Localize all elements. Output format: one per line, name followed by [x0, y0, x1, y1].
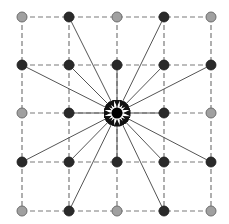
dark-node [64, 157, 74, 167]
arrow-edge [123, 116, 207, 160]
dark-node [64, 60, 74, 70]
dark-node [159, 12, 169, 22]
arrow-edge [121, 118, 160, 159]
arrow-edge [73, 69, 113, 109]
dark-node [159, 60, 169, 70]
dark-node [64, 12, 74, 22]
arrow-edge [71, 21, 114, 107]
gray-node [17, 12, 27, 22]
dark-node [159, 108, 169, 118]
dark-node [159, 157, 169, 167]
gray-node [206, 12, 216, 22]
arrow-edge [71, 119, 114, 207]
gray-node [206, 206, 216, 216]
dark-node [206, 157, 216, 167]
gray-node [112, 206, 122, 216]
arrow-edge [120, 21, 162, 107]
grid-neighborhood-diagram [0, 0, 229, 224]
center-node [112, 108, 123, 119]
dark-node [64, 206, 74, 216]
gray-node [17, 206, 27, 216]
dark-node [112, 60, 122, 70]
arrow-edge [122, 69, 161, 109]
dark-node [64, 108, 74, 118]
dark-node [17, 60, 27, 70]
dark-node [112, 157, 122, 167]
gray-node [112, 12, 122, 22]
dark-node [159, 206, 169, 216]
arrow-edge [120, 119, 162, 207]
arrow-edge [123, 67, 207, 110]
gray-node [206, 108, 216, 118]
arrow-edge [72, 118, 112, 159]
dark-node [206, 60, 216, 70]
dark-node [17, 157, 27, 167]
gray-node [17, 108, 27, 118]
